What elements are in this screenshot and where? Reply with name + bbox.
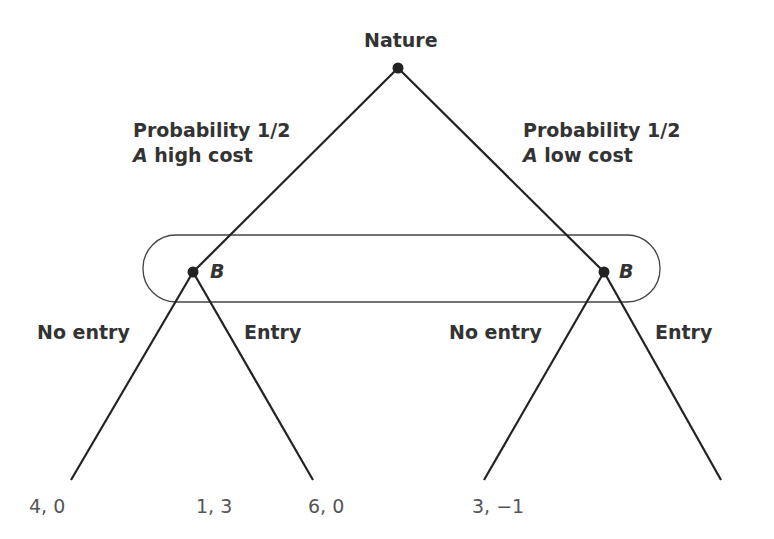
b-label-right: B [619, 259, 633, 284]
nature-node [393, 63, 404, 74]
player-a-left: A [133, 144, 148, 166]
action-high-noentry: No entry [37, 320, 130, 345]
edge-high-noentry [71, 272, 193, 480]
action-high-entry: Entry [244, 320, 301, 345]
edge-high-entry [193, 272, 313, 480]
action-low-entry: Entry [655, 320, 712, 345]
b-node-right [599, 267, 610, 278]
action-low-noentry: No entry [449, 320, 542, 345]
edge-nature-low [398, 68, 604, 272]
b-label-left: B [210, 259, 224, 284]
prob-right: Probability 1/2 [523, 118, 680, 143]
nature-label: Nature [364, 28, 438, 53]
payoff-3: 6, 0 [308, 495, 344, 517]
payoff-4: 3, −1 [472, 495, 524, 517]
b-node-left [188, 267, 199, 278]
edge-low-noentry [484, 272, 604, 480]
prob-left: Probability 1/2 [133, 118, 290, 143]
payoff-1: 4, 0 [29, 495, 65, 517]
type-left: A high cost [133, 143, 253, 168]
game-tree [0, 0, 774, 539]
edge-low-entry [604, 272, 721, 480]
type-right: A low cost [523, 143, 633, 168]
type-left-text: high cost [154, 144, 253, 166]
player-a-right: A [523, 144, 538, 166]
edge-nature-high [193, 68, 398, 272]
type-right-text: low cost [544, 144, 632, 166]
payoff-2: 1, 3 [196, 495, 232, 517]
